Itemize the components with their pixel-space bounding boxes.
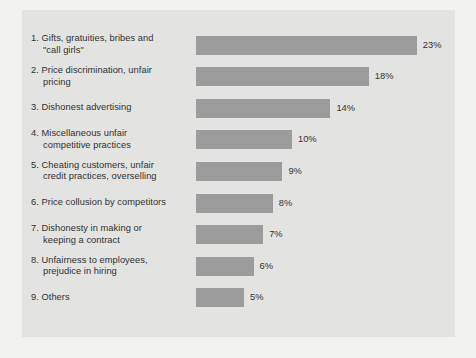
bar-row: 3. Dishonest advertising14%	[22, 93, 455, 123]
bar-value-label: 23%	[423, 40, 442, 51]
bar-fill	[196, 162, 282, 181]
bar-category-label: 9. Others	[31, 292, 197, 304]
bar-track: 14%	[196, 93, 355, 123]
bar-row: 9. Others5%	[22, 283, 455, 313]
bar-value-label: 6%	[260, 261, 273, 272]
bar-row: 6. Price collusion by competitors8%	[22, 188, 455, 218]
bar-track: 6%	[196, 251, 273, 281]
bar-row: 8. Unfairness to employees, prejudice in…	[22, 251, 455, 281]
bar-value-label: 9%	[288, 166, 301, 177]
chart-plot-area: 1. Gifts, gratuities, bribes and "call g…	[22, 10, 455, 337]
bar-fill	[196, 36, 417, 55]
bar-fill	[196, 257, 254, 276]
bar-row: 2. Price discrimination, unfair pricing1…	[22, 62, 455, 92]
bar-chart-figure: 1. Gifts, gratuities, bribes and "call g…	[22, 10, 455, 337]
bar-fill	[196, 225, 263, 244]
bar-row: 4. Miscellaneous unfair competitive prac…	[22, 125, 455, 155]
bar-fill	[196, 288, 244, 307]
bar-value-label: 10%	[298, 134, 317, 145]
bar-fill	[196, 99, 330, 118]
bar-track: 8%	[196, 188, 292, 218]
bar-track: 23%	[196, 30, 441, 60]
bar-value-label: 5%	[250, 292, 263, 303]
bar-track: 7%	[196, 220, 283, 250]
bar-value-label: 14%	[336, 103, 355, 114]
bar-value-label: 8%	[279, 198, 292, 209]
bar-category-label: 3. Dishonest advertising	[31, 102, 197, 114]
bar-category-label: 8. Unfairness to employees, prejudice in…	[31, 255, 197, 278]
bar-category-label: 5. Cheating customers, unfair credit pra…	[31, 160, 197, 183]
bar-category-label: 7. Dishonesty in making or keeping a con…	[31, 223, 197, 246]
bar-fill	[196, 130, 292, 149]
bar-track: 9%	[196, 156, 302, 186]
bar-row: 1. Gifts, gratuities, bribes and "call g…	[22, 30, 455, 60]
bar-category-label: 4. Miscellaneous unfair competitive prac…	[31, 128, 197, 151]
bar-track: 18%	[196, 62, 393, 92]
bar-fill	[196, 194, 273, 213]
bar-value-label: 7%	[269, 229, 282, 240]
bar-value-label: 18%	[375, 71, 394, 82]
bar-fill	[196, 67, 369, 86]
bar-category-label: 1. Gifts, gratuities, bribes and "call g…	[31, 33, 197, 56]
bar-row: 5. Cheating customers, unfair credit pra…	[22, 156, 455, 186]
bar-category-label: 2. Price discrimination, unfair pricing	[31, 65, 197, 88]
bar-track: 10%	[196, 125, 317, 155]
bar-row: 7. Dishonesty in making or keeping a con…	[22, 220, 455, 250]
bar-category-label: 6. Price collusion by competitors	[31, 197, 197, 209]
bar-track: 5%	[196, 283, 263, 313]
